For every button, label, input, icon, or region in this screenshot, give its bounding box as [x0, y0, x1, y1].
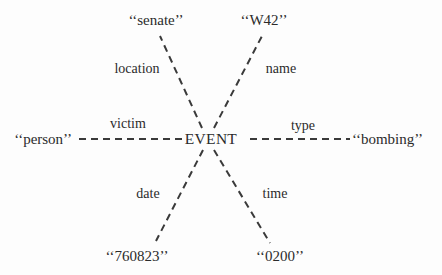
diagram-canvas: EVENT location‘‘senate’’name‘‘W42’’victi… [0, 0, 442, 275]
node-value-time[interactable]: ‘‘0200’’ [256, 249, 304, 264]
node-event[interactable]: EVENT [185, 131, 237, 147]
node-value-type[interactable]: ‘‘bombing’’ [352, 132, 423, 147]
edge-label-time: time [263, 187, 288, 201]
edge-label-date: date [136, 187, 159, 201]
edge-label-name: name [266, 62, 296, 76]
edge-label-type: type [291, 119, 315, 133]
node-value-date[interactable]: ‘‘760823’’ [106, 249, 169, 264]
edge-name [214, 36, 262, 128]
node-value-location[interactable]: ‘‘senate’’ [128, 13, 183, 28]
node-value-name[interactable]: ‘‘W42’’ [241, 13, 288, 28]
node-value-victim[interactable]: ‘‘person’’ [14, 132, 72, 147]
edge-location [160, 36, 202, 128]
edge-date [156, 150, 203, 241]
edge-label-victim: victim [110, 117, 146, 131]
edge-label-location: location [114, 62, 159, 76]
